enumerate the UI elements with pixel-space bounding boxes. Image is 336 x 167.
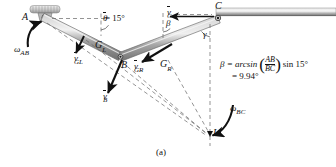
paren-close: ) <box>275 56 281 73</box>
fraction-denominator: BC <box>265 64 275 73</box>
label-point-A: A <box>22 12 28 22</box>
fraction-AB-over-BC: AB BC <box>265 56 275 74</box>
label-point-C: C <box>215 1 222 11</box>
label-angle-theta-symbol: θ <box>103 14 107 23</box>
figure-caption: (a) <box>156 148 166 157</box>
slider-block-C <box>215 15 220 20</box>
slider-track-right <box>216 8 336 16</box>
label-vector-vGL: vGL <box>74 54 83 66</box>
label-angle-gamma: γ <box>203 30 207 39</box>
label-point-GL-sub: L <box>102 46 106 54</box>
label-omega-BC: ωBC <box>230 104 245 116</box>
omega-AB-arc <box>28 22 42 48</box>
label-omega-AB: ωAB <box>14 45 29 57</box>
label-vector-vC: vC <box>167 8 172 20</box>
vector-vB <box>108 60 122 93</box>
label-point-GL: GL <box>95 35 106 54</box>
label-angle-theta-value: = 15° <box>105 13 125 23</box>
angle-arc-beta <box>163 29 170 32</box>
equation-lhs: β = arcsin <box>220 60 257 69</box>
label-omega-AB-sub: AB <box>20 49 29 57</box>
angle-arc-theta <box>101 25 109 30</box>
label-vector-vB-name: v <box>103 92 107 101</box>
label-vector-vGR-name: v <box>134 62 138 71</box>
label-angle-beta: β <box>166 19 170 28</box>
equation-beta-result: = 9.94° <box>232 72 259 81</box>
label-vector-vC-name: v <box>167 8 171 17</box>
label-point-I: I <box>213 128 216 138</box>
label-omega-BC-sub: BC <box>236 108 245 116</box>
label-point-GR: GR <box>160 54 172 73</box>
label-point-B: B <box>121 60 127 70</box>
label-vector-vGL-name: v <box>74 54 78 63</box>
label-point-GR-sub: R <box>167 65 171 73</box>
label-angle-theta: θ= 15° <box>103 14 125 23</box>
label-vector-vB: vB <box>103 92 107 104</box>
label-vector-vGR: vGR <box>134 62 143 74</box>
equation-rhs: sin 15° <box>283 60 308 69</box>
fraction-numerator: AB <box>265 56 275 64</box>
